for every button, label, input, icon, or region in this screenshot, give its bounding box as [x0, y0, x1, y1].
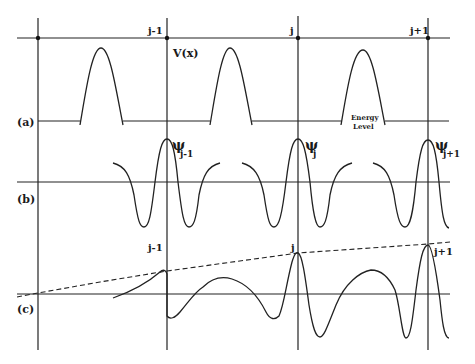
lattice-dot [36, 36, 40, 40]
site-label-j-minus-1: j-1 [147, 25, 163, 36]
band-structure-diagram: j-1 j j+1 V(x) Energy Level (a) (b) ψ j-… [0, 0, 475, 364]
potential-label: V(x) [172, 47, 199, 60]
site-label-j-plus-1: j+1 [409, 25, 429, 36]
wavefunction-j [242, 139, 352, 227]
lattice-dot [165, 36, 169, 40]
bloch-wavefunction [113, 245, 449, 338]
envelope-dashed-line [17, 242, 450, 297]
panel-label-c: (c) [17, 303, 34, 316]
site-label-j: j [289, 25, 294, 36]
energy-level-label-2: Level [353, 122, 374, 131]
lattice-dot [296, 36, 300, 40]
psi-subscript-j: j [312, 149, 316, 159]
panel-label-a: (a) [17, 116, 35, 129]
energy-level-label-1: Energy [351, 113, 379, 122]
site-label-c-j-plus-1: j+1 [433, 246, 453, 257]
wavefunction-j-plus-1 [373, 140, 449, 228]
psi-subscript-j-minus-1: j-1 [179, 149, 193, 159]
site-label-c-j: j [290, 242, 295, 253]
potential-curve [38, 48, 449, 125]
site-label-c-j-minus-1: j-1 [147, 242, 163, 253]
psi-subscript-j-plus-1: j+1 [442, 149, 460, 159]
lattice-dot [426, 36, 430, 40]
panel-label-b: (b) [17, 193, 35, 206]
